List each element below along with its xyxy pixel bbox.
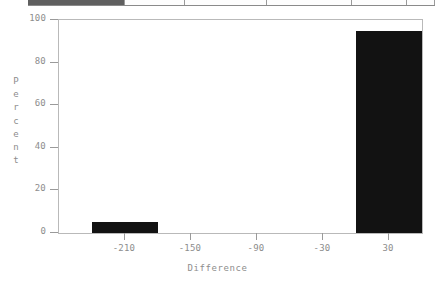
- toolbar-cells: [28, 0, 435, 6]
- y-axis-tick-label: 80: [0, 57, 46, 66]
- x-axis-tick: [322, 233, 323, 240]
- y-axis-title-letter: e: [10, 128, 22, 141]
- histogram-screenshot: Percent 020406080100 -210-150-90-3030 Di…: [0, 0, 435, 283]
- chart-canvas: Percent 020406080100 -210-150-90-3030 Di…: [0, 7, 435, 283]
- x-axis-title: Difference: [0, 263, 435, 273]
- y-axis-tick: [50, 19, 58, 20]
- x-axis-tick: [388, 233, 389, 240]
- y-axis-title-letter: t: [10, 154, 22, 167]
- cut-off-toolbar-row: [0, 0, 435, 7]
- x-axis-tick: [190, 233, 191, 240]
- y-axis-title-letter: c: [10, 115, 22, 128]
- y-axis-tick-label: 60: [0, 99, 46, 108]
- x-axis-tick-label: -90: [226, 243, 286, 253]
- x-axis-tick-label: -150: [160, 243, 220, 253]
- x-axis-tick-label: 30: [358, 243, 418, 253]
- y-axis-tick-label: 0: [0, 227, 46, 236]
- bar: [92, 222, 158, 233]
- y-axis-tick-label: 100: [0, 14, 46, 23]
- plot-area: [58, 19, 423, 234]
- y-axis-tick: [50, 62, 58, 63]
- toolbar-cell: [352, 0, 407, 5]
- toolbar-cell: [28, 0, 125, 5]
- toolbar-cell: [267, 0, 352, 5]
- toolbar-cell: [125, 0, 185, 5]
- y-axis-title-letter: P: [10, 75, 22, 88]
- x-axis-tick: [256, 233, 257, 240]
- toolbar-cell: [407, 0, 435, 5]
- x-axis-tick-label: -210: [94, 243, 154, 253]
- y-axis-tick: [50, 104, 58, 105]
- y-axis-tick: [50, 189, 58, 190]
- bar-series: [59, 20, 422, 233]
- y-axis-tick-label: 40: [0, 142, 46, 151]
- x-axis-tick-label: -30: [292, 243, 352, 253]
- x-axis-tick: [124, 233, 125, 240]
- bar: [356, 31, 422, 233]
- y-axis-tick: [50, 232, 58, 233]
- y-axis-tick-label: 20: [0, 184, 46, 193]
- toolbar-cell: [185, 0, 267, 5]
- y-axis-tick: [50, 147, 58, 148]
- y-axis-title: Percent: [10, 75, 22, 167]
